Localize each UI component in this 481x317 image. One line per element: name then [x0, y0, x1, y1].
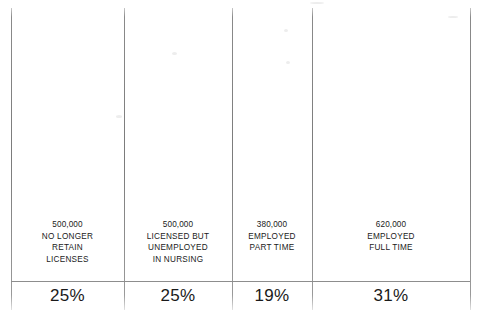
column-percent-3: 19% [232, 284, 312, 310]
column-label-2-line-3: IN NURSING [124, 254, 232, 266]
column-count-2: 500,000 [124, 219, 232, 231]
column-label-1-line-2: RETAIN [11, 242, 124, 254]
column-label-block-1: 500,000 NO LONGER RETAIN LICENSES [11, 219, 124, 279]
percent-row-divider [11, 281, 470, 282]
scan-artifact [172, 52, 177, 55]
column-label-1-line-1: NO LONGER [11, 231, 124, 243]
column-divider-right-edge [470, 8, 471, 310]
column-label-1-line-3: LICENSES [11, 254, 124, 266]
scan-artifact [284, 29, 288, 32]
chart-figure: 500,000 NO LONGER RETAIN LICENSES 25% 50… [0, 0, 481, 317]
scan-artifact [116, 115, 122, 118]
column-label-4-line-1: EMPLOYED [312, 231, 470, 243]
column-label-2-line-2: UNEMPLOYED [124, 242, 232, 254]
column-percent-4: 31% [312, 284, 470, 310]
column-label-2-line-1: LICENSED BUT [124, 231, 232, 243]
column-label-block-3: 380,000 EMPLOYED PART TIME [232, 219, 312, 279]
column-label-block-2: 500,000 LICENSED BUT UNEMPLOYED IN NURSI… [124, 219, 232, 279]
column-percent-1: 25% [11, 284, 124, 310]
scan-artifact [310, 2, 324, 4]
scan-artifact [448, 16, 458, 18]
column-count-3: 380,000 [232, 219, 312, 231]
column-count-1: 500,000 [11, 219, 124, 231]
column-label-3-line-2: PART TIME [232, 242, 312, 254]
column-label-4-line-2: FULL TIME [312, 242, 470, 254]
column-label-block-4: 620,000 EMPLOYED FULL TIME [312, 219, 470, 279]
column-count-4: 620,000 [312, 219, 470, 231]
column-label-3-line-1: EMPLOYED [232, 231, 312, 243]
scan-artifact [286, 61, 290, 64]
column-percent-2: 25% [124, 284, 232, 310]
